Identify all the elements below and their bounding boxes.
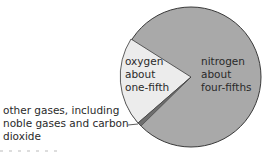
label-oxygen-line3: one-fifth: [125, 81, 169, 94]
leader-line: [128, 124, 138, 125]
label-other-line3: dioxide: [3, 130, 129, 143]
label-other-gases: other gases, including noble gases and c…: [3, 104, 129, 143]
label-oxygen: oxygen about one-fifth: [125, 55, 169, 94]
label-oxygen-line1: oxygen: [125, 55, 169, 68]
label-nitrogen-line3: four-fifths: [201, 81, 252, 94]
label-other-line2: noble gases and carbon: [3, 117, 129, 130]
label-nitrogen: nitrogen about four-fifths: [201, 55, 252, 94]
label-nitrogen-line2: about: [201, 68, 252, 81]
label-nitrogen-line1: nitrogen: [201, 55, 252, 68]
label-oxygen-line2: about: [125, 68, 169, 81]
label-other-line1: other gases, including: [3, 104, 129, 117]
